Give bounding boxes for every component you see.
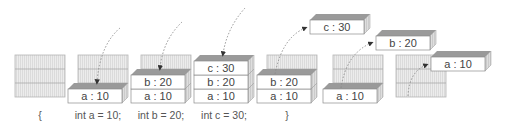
caption-close-brace: } bbox=[285, 109, 289, 121]
box-a: a : 10 bbox=[323, 83, 383, 103]
caption-open-brace: { bbox=[38, 109, 42, 121]
stack-memory-diagram: a : 10 a : 10 b : 20 a : 10 b : 20 bbox=[0, 0, 505, 128]
stack-empty bbox=[15, 55, 65, 97]
svg-text:a : 10: a : 10 bbox=[444, 58, 472, 70]
popped-box-a: a : 10 bbox=[431, 51, 491, 71]
stack-push-c: a : 10 b : 20 c : 30 bbox=[194, 8, 254, 103]
stack-pop-a: a : 10 bbox=[396, 51, 491, 97]
svg-text:b : 20: b : 20 bbox=[144, 76, 172, 88]
stack-push-a: a : 10 bbox=[68, 28, 128, 103]
svg-text:a : 10: a : 10 bbox=[144, 90, 172, 102]
stack-push-b: a : 10 b : 20 bbox=[131, 22, 191, 103]
popped-box-b: b : 20 bbox=[376, 30, 436, 50]
caption-int-a: int a = 10; bbox=[75, 109, 121, 121]
caption-int-c: int c = 30; bbox=[201, 109, 247, 121]
box-b: b : 20 bbox=[257, 69, 317, 89]
svg-text:a : 10: a : 10 bbox=[207, 90, 235, 102]
label-a: a : 10 bbox=[81, 90, 109, 102]
svg-text:a : 10: a : 10 bbox=[270, 90, 298, 102]
svg-text:c : 30: c : 30 bbox=[208, 62, 235, 74]
svg-text:c : 30: c : 30 bbox=[324, 21, 351, 33]
svg-text:b : 20: b : 20 bbox=[207, 76, 235, 88]
popped-box-c: c : 30 bbox=[310, 14, 370, 34]
box-c: c : 30 bbox=[194, 55, 254, 75]
svg-text:b : 20: b : 20 bbox=[270, 76, 298, 88]
caption-int-b: int b = 20; bbox=[138, 109, 184, 121]
box-a: a : 10 bbox=[68, 83, 128, 103]
push-arrow-icon bbox=[223, 8, 245, 54]
box-b: b : 20 bbox=[131, 69, 191, 89]
svg-text:a : 10: a : 10 bbox=[336, 90, 364, 102]
svg-text:b : 20: b : 20 bbox=[389, 37, 417, 49]
